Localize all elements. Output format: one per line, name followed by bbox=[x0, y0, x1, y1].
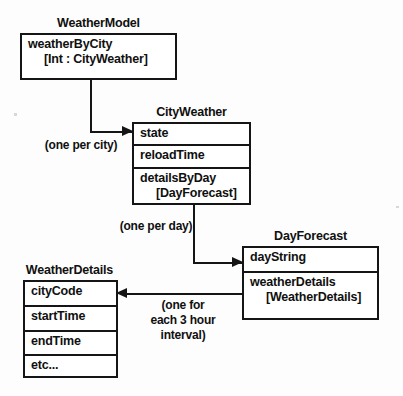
connector-label-line-2: each 3 hour bbox=[150, 313, 215, 327]
row-property-type: [WeatherDetails] bbox=[250, 290, 373, 305]
connector-label-line-1: (one for bbox=[161, 298, 204, 312]
class-row: etc... bbox=[25, 356, 116, 380]
row-property-name: dayString bbox=[250, 250, 306, 264]
class-row: detailsByDay [DayForecast] bbox=[134, 169, 249, 204]
class-title-weather-model: WeatherModel bbox=[20, 16, 177, 30]
class-row: dayString bbox=[244, 248, 377, 273]
class-row: reloadTime bbox=[134, 146, 249, 169]
connector-label-one-per-city: (one per city) bbox=[27, 138, 135, 153]
row-property-name: etc... bbox=[31, 358, 58, 372]
class-row: startTime bbox=[25, 307, 116, 332]
class-row: state bbox=[134, 124, 249, 146]
scan-speck bbox=[396, 206, 399, 208]
class-row: weatherDetails [WeatherDetails] bbox=[244, 273, 377, 308]
row-property-name: reloadTime bbox=[140, 148, 204, 162]
connector-label-one-per-day: (one per day) bbox=[101, 219, 211, 234]
class-title-weather-details: WeatherDetails bbox=[21, 263, 118, 277]
diagram-canvas: WeatherModel weatherByCity [Int : CityWe… bbox=[0, 0, 403, 396]
connector-city-to-day-arrowhead bbox=[232, 257, 243, 267]
class-box-weather-model: weatherByCity [Int : CityWeather] bbox=[20, 33, 177, 80]
connector-label-one-for-each-3-hour-interval: (one for each 3 hour interval) bbox=[131, 298, 235, 343]
row-property-type: [Int : CityWeather] bbox=[28, 52, 171, 67]
class-box-weather-details: cityCode startTime endTime etc... bbox=[23, 280, 118, 378]
row-property-name: weatherDetails bbox=[250, 275, 335, 289]
connector-city-to-day-vertical bbox=[193, 205, 195, 263]
connector-model-to-city-vertical bbox=[90, 80, 92, 132]
connector-model-to-city-arrowhead bbox=[122, 126, 133, 136]
class-title-city-weather: CityWeather bbox=[132, 105, 251, 119]
row-property-name: state bbox=[140, 126, 168, 140]
row-property-name: startTime bbox=[31, 309, 85, 323]
class-row: endTime bbox=[25, 332, 116, 356]
connector-day-to-details-arrowhead bbox=[116, 288, 127, 298]
class-title-day-forecast: DayForecast bbox=[242, 229, 379, 243]
row-property-name: cityCode bbox=[31, 284, 82, 298]
scan-speck bbox=[14, 113, 17, 116]
class-box-day-forecast: dayString weatherDetails [WeatherDetails… bbox=[242, 246, 379, 320]
connector-day-to-details-horizontal bbox=[126, 293, 242, 295]
row-property-type: [DayForecast] bbox=[140, 186, 245, 201]
class-row: cityCode bbox=[25, 282, 116, 307]
connector-label-line-3: interval) bbox=[161, 328, 206, 342]
class-box-city-weather: state reloadTime detailsByDay [DayForeca… bbox=[132, 122, 251, 205]
row-property-name: weatherByCity bbox=[28, 37, 112, 51]
row-property-name: detailsByDay bbox=[140, 171, 216, 185]
row-property-name: endTime bbox=[31, 334, 81, 348]
class-row: weatherByCity [Int : CityWeather] bbox=[22, 35, 175, 70]
